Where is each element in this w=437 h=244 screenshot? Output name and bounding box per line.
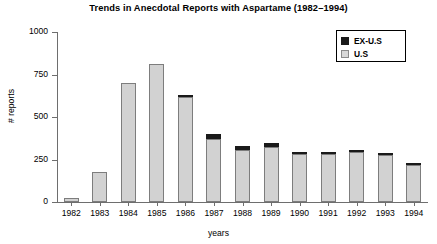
x-tick	[414, 202, 415, 206]
bar-segment-us	[64, 198, 79, 202]
bar-segment-ex-us	[206, 134, 221, 139]
bar-group	[406, 32, 421, 202]
bar-segment-us	[149, 64, 164, 202]
x-tick	[385, 202, 386, 206]
bar-segment-us	[264, 147, 279, 202]
bar-segment-us	[178, 97, 193, 202]
gray-square-swatch	[341, 50, 349, 58]
bar-group	[92, 32, 107, 202]
bar-segment-us	[206, 139, 221, 202]
legend-item-ex-us: EX-U.S	[341, 34, 401, 47]
bar-group	[149, 32, 164, 202]
bar-group	[121, 32, 136, 202]
black-square-swatch	[341, 37, 349, 45]
y-tick-label: 500	[8, 112, 48, 121]
y-tick	[52, 202, 57, 203]
y-tick-label: 0	[8, 197, 48, 206]
bar-group	[206, 32, 221, 202]
bar-chart: Trends in Anecdotal Reports with Asparta…	[0, 0, 437, 244]
bar-segment-us	[349, 152, 364, 202]
y-axis-title: # reports	[6, 71, 16, 141]
x-tick-label: 1994	[394, 209, 434, 218]
bar-segment-ex-us	[235, 146, 250, 150]
bar-segment-us	[406, 165, 421, 202]
bar-segment-ex-us	[264, 143, 279, 147]
x-tick	[328, 202, 329, 206]
bar-segment-ex-us	[292, 152, 307, 154]
x-tick	[357, 202, 358, 206]
bar-segment-us	[321, 154, 336, 202]
bar-segment-us	[121, 83, 136, 202]
legend-label-ex-us: EX-U.S	[354, 36, 382, 46]
x-tick	[214, 202, 215, 206]
x-tick	[300, 202, 301, 206]
x-tick	[243, 202, 244, 206]
bar-segment-ex-us	[406, 163, 421, 165]
y-tick-label: 250	[8, 155, 48, 164]
bar-segment-ex-us	[178, 95, 193, 98]
x-tick	[100, 202, 101, 206]
bar-group	[292, 32, 307, 202]
legend-item-us: U.S	[341, 47, 401, 60]
bar-group	[178, 32, 193, 202]
y-tick-label: 750	[8, 70, 48, 79]
x-tick	[157, 202, 158, 206]
legend-label-us: U.S	[354, 49, 368, 59]
bar-group	[321, 32, 336, 202]
chart-legend: EX-U.S U.S	[336, 30, 406, 62]
bar-segment-ex-us	[378, 153, 393, 155]
x-tick	[185, 202, 186, 206]
x-tick	[128, 202, 129, 206]
bar-segment-us	[235, 150, 250, 202]
x-tick	[271, 202, 272, 206]
bar-segment-us	[292, 154, 307, 202]
bar-group	[64, 32, 79, 202]
x-axis-title: years	[0, 228, 437, 238]
chart-title: Trends in Anecdotal Reports with Asparta…	[0, 3, 437, 13]
x-tick	[71, 202, 72, 206]
bar-group	[235, 32, 250, 202]
bar-group	[264, 32, 279, 202]
bar-segment-ex-us	[321, 152, 336, 154]
y-tick-label: 1000	[8, 27, 48, 36]
bar-segment-us	[92, 172, 107, 202]
bar-segment-us	[378, 155, 393, 202]
bar-segment-ex-us	[349, 150, 364, 152]
